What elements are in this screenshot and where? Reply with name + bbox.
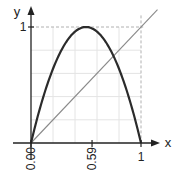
- x-axis-label: x: [165, 135, 172, 150]
- x-tick-label-1: 1: [138, 150, 145, 164]
- reference-dashed-lines: [31, 15, 143, 143]
- y-axis-arrow-icon: [28, 6, 35, 15]
- x-tick-label-mid: 0.59: [85, 147, 99, 171]
- y-tick-label-1: 1: [20, 20, 27, 34]
- y-axis-label: y: [14, 4, 21, 19]
- x-axis-arrow-icon: [151, 140, 160, 147]
- axes: [13, 6, 160, 160]
- plot-series: [31, 10, 158, 143]
- x-tick-label-0: 0.00: [24, 147, 38, 171]
- chart: y x 1 1 0.00 0.59: [0, 0, 176, 179]
